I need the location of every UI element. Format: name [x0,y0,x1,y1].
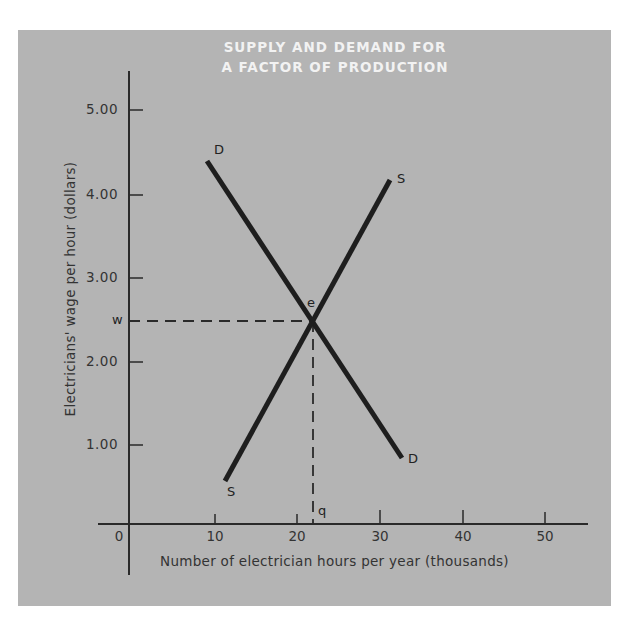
chart-title: SUPPLY AND DEMAND FOR A FACTOR OF PRODUC… [190,37,480,77]
x-tick-label: 40 [443,528,483,544]
y-ticks [129,110,143,445]
y-tick-label: 1.00 [58,436,118,452]
y-tick-label: 4.00 [58,186,118,202]
supply-top-label: S [397,171,405,186]
quantity-label: q [318,503,326,518]
x-axis-label: Number of electrician hours per year (th… [160,553,580,569]
supply-bottom-label: S [227,484,235,499]
x-tick-label: 0 [99,528,139,544]
demand-curve [207,161,402,458]
chart-title-line1: SUPPLY AND DEMAND FOR [190,37,480,57]
y-tick-label: 5.00 [58,101,118,117]
x-tick-label: 20 [277,528,317,544]
y-tick-label: 3.00 [58,269,118,285]
x-tick-label: 30 [360,528,400,544]
y-tick-label: 2.00 [58,353,118,369]
x-tick-label: 50 [525,528,565,544]
wage-label: w [112,312,123,327]
demand-top-label: D [214,142,224,157]
chart-title-line2: A FACTOR OF PRODUCTION [190,57,480,77]
x-tick-label: 10 [195,528,235,544]
equilibrium-label: e [307,295,315,310]
x-ticks [215,510,545,524]
demand-bottom-label: D [408,451,418,466]
